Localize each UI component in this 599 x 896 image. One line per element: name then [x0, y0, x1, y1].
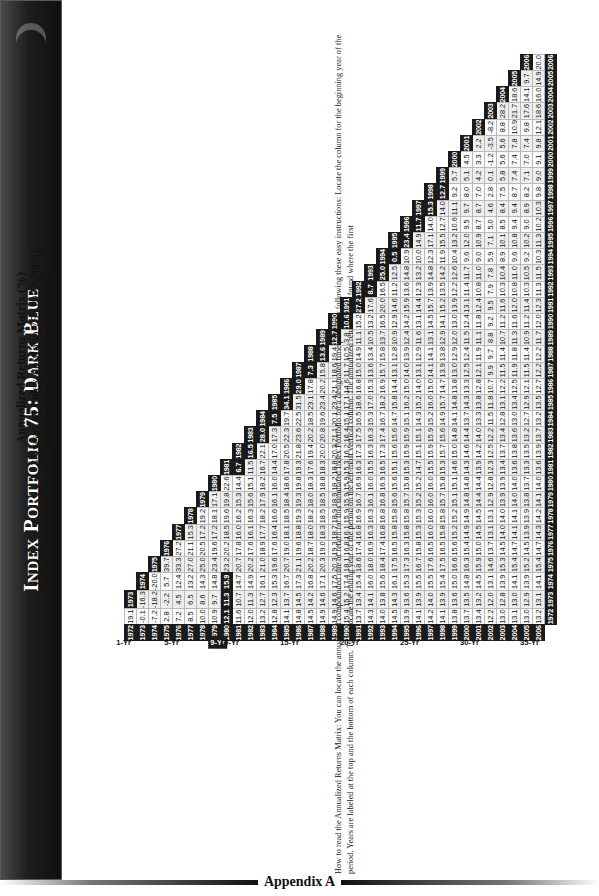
matrix-cell: 17.3 — [293, 573, 305, 591]
strip-cell — [557, 476, 568, 492]
matrix-empty-cell — [269, 265, 281, 281]
matrix-cell: 0.1 — [485, 168, 497, 184]
matrix-empty-cell — [197, 297, 209, 313]
matrix-cell: 16.3 — [245, 508, 257, 524]
matrix-cell: 16.1 — [245, 524, 257, 540]
matrix-empty-cell — [293, 281, 305, 297]
matrix-empty-cell — [473, 54, 485, 70]
row-year-header: 1977 — [185, 625, 197, 641]
column-year-top: 1985 — [269, 395, 281, 411]
matrix-empty-cell — [173, 492, 185, 508]
strip-cell — [557, 362, 568, 378]
matrix-empty-cell — [269, 135, 281, 151]
matrix-cell: 12.4 — [461, 314, 473, 330]
matrix-empty-cell — [221, 330, 233, 346]
column-year-bottom: 1983 — [545, 427, 557, 443]
matrix-empty-cell — [305, 200, 317, 216]
matrix-empty-cell — [257, 135, 269, 151]
matrix-cell: 15.8 — [437, 476, 449, 492]
matrix-empty-cell — [197, 70, 209, 86]
matrix-empty-cell — [137, 249, 149, 265]
matrix-cell: 14.4 — [269, 459, 281, 475]
matrix-cell: 13.4 — [497, 459, 509, 475]
matrix-empty-cell — [293, 54, 305, 70]
matrix-cell: 11.8 — [509, 346, 521, 362]
matrix-empty-cell — [149, 233, 161, 249]
matrix-empty-cell — [161, 249, 173, 265]
matrix-cell: 13.1 — [425, 330, 437, 346]
matrix-cell: 14.8 — [461, 492, 473, 508]
matrix-empty-cell — [305, 249, 317, 265]
matrix-empty-cell — [245, 119, 257, 135]
matrix-cell: 20.2 — [305, 557, 317, 573]
matrix-empty-cell — [257, 297, 269, 313]
matrix-cell: 12.1 — [533, 119, 545, 135]
matrix-cell: 14.1 — [281, 609, 293, 625]
matrix-empty-cell — [281, 249, 293, 265]
table-row: 197910.99.714.823.419.617.218.117.11980 — [209, 54, 221, 656]
matrix-cell: 23.4 — [209, 557, 221, 573]
matrix-cell: 17.3 — [377, 443, 389, 459]
matrix-cell: 18.1 — [209, 508, 221, 524]
matrix-empty-cell — [293, 87, 305, 103]
matrix-empty-cell — [161, 119, 173, 135]
matrix-empty-cell — [197, 476, 209, 492]
matrix-cell: 11.5 — [485, 411, 497, 427]
matrix-cell: 12.0 — [509, 297, 521, 313]
matrix-empty-cell — [437, 103, 449, 119]
matrix-cell: 11.4 — [521, 297, 533, 313]
matrix-cell: 14.0 — [401, 362, 413, 378]
matrix-empty-cell — [257, 152, 269, 168]
matrix-cell: 16.3 — [461, 557, 473, 573]
matrix-empty-cell — [257, 346, 269, 362]
matrix-empty-cell — [149, 152, 161, 168]
matrix-empty-cell — [125, 443, 137, 459]
matrix-cell: 10.9 — [509, 119, 521, 135]
matrix-empty-cell — [293, 119, 305, 135]
matrix-empty-cell — [305, 330, 317, 346]
column-year-top: 1997 — [413, 200, 425, 216]
matrix-empty-cell — [173, 135, 185, 151]
matrix-cell: 13.2 — [257, 609, 269, 625]
matrix-empty-cell — [209, 216, 221, 232]
matrix-cell: 11.6 — [497, 297, 509, 313]
matrix-cell: 10.9 — [401, 249, 413, 265]
matrix-empty-cell — [125, 378, 137, 394]
matrix-cell: 7.8 — [509, 135, 521, 151]
matrix-cell: 17.6 — [245, 540, 257, 556]
matrix-empty-cell — [125, 216, 137, 232]
matrix-cell: 14.0 — [473, 427, 485, 443]
matrix-cell: 15.3 — [269, 573, 281, 591]
matrix-cell: 13.9 — [437, 362, 449, 378]
matrix-cell: 13.6 — [533, 459, 545, 475]
matrix-empty-cell — [173, 443, 185, 459]
matrix-cell: 12.8 — [389, 346, 401, 362]
matrix-empty-cell — [317, 200, 329, 216]
matrix-cell: 14.1 — [413, 609, 425, 625]
matrix-cell: 5.7 — [161, 573, 173, 591]
matrix-empty-cell — [401, 184, 413, 200]
matrix-cell: 13.6 — [317, 346, 329, 362]
table-row: 25-Yr199614.113.915.516.715.815.315.315.… — [413, 54, 425, 656]
matrix-empty-cell — [413, 87, 425, 103]
matrix-empty-cell — [197, 87, 209, 103]
matrix-empty-cell — [425, 135, 437, 151]
matrix-empty-cell — [269, 103, 281, 119]
matrix-empty-cell — [305, 168, 317, 184]
matrix-cell: 17.2 — [209, 524, 221, 540]
column-year-bottom: 1981 — [545, 459, 557, 475]
matrix-empty-cell — [125, 362, 137, 378]
matrix-cell: 14.3 — [197, 573, 209, 591]
matrix-empty-cell — [125, 508, 137, 524]
column-year-bottom: 1994 — [545, 249, 557, 265]
column-year-bottom: 1989 — [545, 330, 557, 346]
matrix-cell: 14.9 — [245, 573, 257, 591]
matrix-cell: 18.8 — [317, 476, 329, 492]
matrix-cell: 7.0 — [473, 184, 485, 200]
matrix-cell: 12.8 — [497, 591, 509, 609]
matrix-cell: 16.8 — [377, 492, 389, 508]
matrix-cell: 16.5 — [377, 314, 389, 330]
matrix-cell: 13.7 — [377, 330, 389, 346]
matrix-cell: 10.2 — [521, 233, 533, 249]
column-year-bottom: 2000 — [545, 152, 557, 168]
